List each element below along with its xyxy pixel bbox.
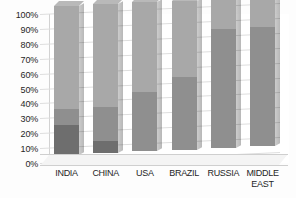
bar-side-face bbox=[79, 3, 84, 155]
bar-segment-2 bbox=[54, 109, 79, 125]
bar-stack bbox=[250, 0, 275, 146]
bar-side-face bbox=[275, 0, 280, 146]
plot-area bbox=[40, 14, 288, 166]
chart-floor-front-edge bbox=[40, 165, 288, 166]
bar-segment-2 bbox=[93, 107, 118, 141]
bar-segment-3 bbox=[211, 0, 236, 29]
bar-brazil bbox=[172, 1, 197, 150]
bar-segment-3 bbox=[132, 2, 157, 91]
bar-segment-3 bbox=[54, 6, 79, 109]
y-tick-label: 40% bbox=[21, 100, 38, 109]
x-label-middle-east: MIDDLE EAST bbox=[242, 168, 283, 190]
bar-segment-1 bbox=[54, 125, 79, 155]
bar-segment-1 bbox=[93, 141, 118, 153]
bar-usa bbox=[132, 2, 157, 151]
y-tick-label: 10% bbox=[21, 145, 38, 154]
bar-stack bbox=[132, 2, 157, 151]
y-tick-label: 20% bbox=[21, 130, 38, 139]
bar-stack bbox=[211, 0, 236, 148]
bar-side-face bbox=[197, 0, 202, 150]
bar-segment-3 bbox=[250, 0, 275, 27]
x-label-india: INDIA bbox=[46, 168, 87, 179]
y-tick-label: 80% bbox=[21, 40, 38, 49]
bar-segment-2 bbox=[211, 29, 236, 148]
bar-stack bbox=[93, 4, 118, 153]
bar-segment-3 bbox=[93, 4, 118, 107]
y-tick-label: 90% bbox=[21, 25, 38, 34]
bar-china bbox=[93, 4, 118, 153]
bar-stack bbox=[54, 6, 79, 155]
x-axis-labels: INDIACHINAUSABRAZILRUSSIAMIDDLE EAST bbox=[40, 168, 296, 198]
y-axis: 100%90%80%70%60%50%40%30%20%10%0% bbox=[0, 0, 40, 198]
bar-side-face bbox=[157, 0, 162, 151]
y-tick-label: 60% bbox=[21, 70, 38, 79]
x-label-russia: RUSSIA bbox=[203, 168, 244, 179]
bar-russia bbox=[211, 0, 236, 148]
bar-middle-east bbox=[250, 0, 275, 146]
bar-side-face bbox=[118, 2, 123, 154]
bar-stack bbox=[172, 1, 197, 150]
bar-segment-2 bbox=[132, 92, 157, 152]
bar-india bbox=[54, 6, 79, 155]
bar-segment-2 bbox=[250, 27, 275, 146]
x-label-china: CHINA bbox=[85, 168, 126, 179]
bar-top-face bbox=[172, 0, 202, 1]
bar-top-face bbox=[54, 1, 84, 6]
y-tick-label: 70% bbox=[21, 55, 38, 64]
y-tick-label: 50% bbox=[21, 85, 38, 94]
chart-floor-back-edge bbox=[40, 154, 288, 155]
y-tick-label: 0% bbox=[25, 160, 38, 169]
stacked-column-chart: 100%90%80%70%60%50%40%30%20%10%0% INDIAC… bbox=[0, 0, 296, 198]
y-tick-label: 100% bbox=[16, 11, 38, 20]
x-label-brazil: BRAZIL bbox=[164, 168, 205, 179]
y-tick-label: 30% bbox=[21, 115, 38, 124]
x-label-usa: USA bbox=[124, 168, 165, 179]
bar-segment-3 bbox=[172, 1, 197, 77]
bar-side-face bbox=[236, 0, 241, 148]
bar-segment-2 bbox=[172, 77, 197, 150]
